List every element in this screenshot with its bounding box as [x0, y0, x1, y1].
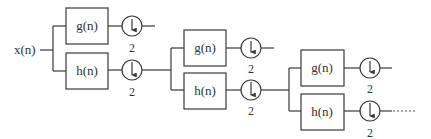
filter-label: h(n) — [311, 104, 333, 119]
downsample-icon — [122, 16, 142, 36]
filter-label: h(n) — [76, 63, 98, 78]
stage-3-highpass-filter: h(n) — [301, 94, 344, 130]
downsample-icon — [241, 80, 261, 100]
stage-3: g(n) 2 h(n) 2 — [301, 50, 417, 139]
stage-2-branch-wire — [171, 48, 184, 90]
downsample-factor: 2 — [367, 126, 373, 139]
downsample-icon — [122, 60, 142, 80]
filter-bank-diagram: x(n) g(n) 2 h(n) 2 — [0, 0, 431, 139]
downsample-factor: 2 — [129, 41, 135, 55]
downsample-factor: 2 — [248, 104, 254, 118]
input-wire — [40, 26, 66, 71]
input-label: x(n) — [14, 42, 36, 57]
downsample-icon — [360, 101, 380, 121]
stage-3-lowpass-filter: g(n) — [301, 50, 344, 86]
filter-label: g(n) — [194, 40, 216, 55]
downsample-factor: 2 — [129, 85, 135, 99]
stage-2: g(n) 2 h(n) 2 — [184, 30, 289, 118]
filter-label: g(n) — [76, 18, 98, 33]
stage-1-highpass-filter: h(n) — [66, 53, 108, 89]
downsample-factor: 2 — [367, 82, 373, 96]
downsample-icon — [360, 58, 380, 78]
downsample-icon — [241, 38, 261, 58]
downsample-factor: 2 — [248, 62, 254, 76]
filter-label: h(n) — [194, 83, 216, 98]
filter-label: g(n) — [311, 60, 333, 75]
stage-2-highpass-filter: h(n) — [184, 73, 226, 109]
stage-1: g(n) 2 h(n) 2 — [66, 8, 171, 99]
stage-3-branch-wire — [289, 68, 301, 111]
stage-2-lowpass-filter: g(n) — [184, 30, 226, 66]
stage-1-lowpass-filter: g(n) — [66, 8, 108, 44]
